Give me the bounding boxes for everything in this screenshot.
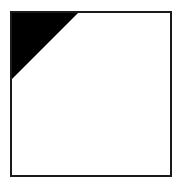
- figure-canvas: [0, 0, 182, 188]
- geometric-figure-svg: [0, 0, 182, 188]
